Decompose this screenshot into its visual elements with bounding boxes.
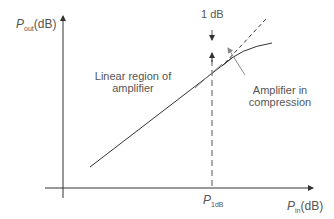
ideal-extrapolation-dashed [225,19,266,63]
compression-label-line1: Amplifier in [240,84,320,96]
y-axis-unit: (dB) [34,17,57,31]
linear-label-line2: amplifier [88,82,178,94]
x-axis-label: Pin(dB) [287,200,323,217]
y-axis-subscript: out [24,25,34,32]
x-axis-unit: (dB) [300,199,323,213]
p1db-subscript: 1dB [211,201,223,208]
x-axis-symbol: P [287,199,295,213]
compression-curve [222,43,272,66]
linear-region-label: Linear region of amplifier [88,70,178,94]
compression-label: Amplifier in compression [240,84,320,108]
y-axis-symbol: P [16,17,24,31]
p1db-symbol: P [203,193,211,207]
linear-pointer [195,64,222,88]
y-axis-label: Pout(dB) [16,18,56,35]
linear-label-line1: Linear region of [88,70,178,82]
one-db-label: 1 dB [201,8,224,20]
p1db-label: P1dB [203,194,223,211]
compression-label-line2: compression [240,96,320,108]
